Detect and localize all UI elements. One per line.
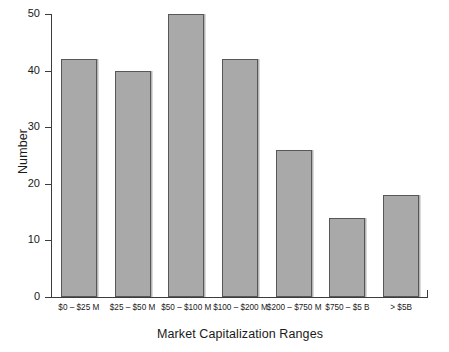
bar[interactable] [115, 14, 151, 297]
bar-rect [222, 59, 258, 297]
bar[interactable] [329, 14, 365, 297]
y-axis-tick-label: 20 [18, 178, 40, 189]
plot-area [52, 14, 428, 297]
bar-rect [276, 150, 312, 297]
bar-chart: Number 01020304050 $0 – $25 M$25 – $50 M… [0, 0, 449, 352]
bar[interactable] [61, 14, 97, 297]
x-axis-title: Market Capitalization Ranges [52, 326, 428, 342]
y-axis-tick-mark [45, 240, 51, 241]
x-axis-tick-label: $750 – $5 B [321, 301, 375, 315]
y-axis-tick-mark [45, 14, 51, 15]
bar-rect [383, 195, 419, 297]
bar-rect [115, 71, 151, 297]
y-axis-tick-mark [45, 297, 51, 298]
y-axis-tick-mark [45, 127, 51, 128]
bar-rect [168, 14, 204, 297]
bar[interactable] [168, 14, 204, 297]
x-axis-tick-label: > $5B [374, 301, 428, 315]
y-axis-tick-label: 0 [18, 291, 40, 302]
x-axis-tick-label: $100 – $200 M [213, 301, 267, 315]
bar[interactable] [276, 14, 312, 297]
y-axis-tick-mark [45, 184, 51, 185]
bar[interactable] [222, 14, 258, 297]
y-axis-tick-label: 10 [18, 234, 40, 245]
x-axis-tick-label: $25 – $50 M [106, 301, 160, 315]
bar-rect [61, 59, 97, 297]
x-axis-tick-labels: $0 – $25 M$25 – $50 M$50 – $100 M$100 – … [52, 301, 428, 317]
y-axis-tick-labels: 01020304050 [18, 0, 40, 352]
bar-rect [329, 218, 365, 297]
y-axis-tick-label: 30 [18, 121, 40, 132]
y-axis-tick-label: 50 [18, 8, 40, 19]
bar[interactable] [383, 14, 419, 297]
y-axis-tick-mark [45, 71, 51, 72]
x-axis-line [51, 297, 428, 298]
x-axis-tick-label: $0 – $25 M [52, 301, 106, 315]
y-axis-tick-label: 40 [18, 65, 40, 76]
x-axis-tick-label: $50 – $100 M [159, 301, 213, 315]
x-axis-tick-label: $200 – $750 M [267, 301, 321, 315]
